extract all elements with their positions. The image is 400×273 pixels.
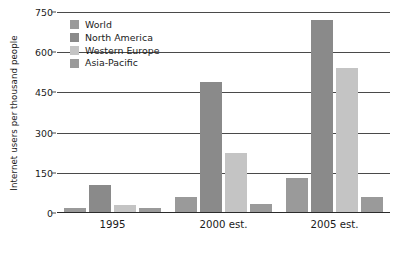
y-axis-tick-label: 0: [13, 208, 53, 219]
y-axis-tick-label: 450: [13, 87, 53, 98]
y-axis-tick-mark: [51, 172, 56, 173]
legend-item: Western Europe: [70, 46, 159, 55]
legend-swatch-icon: [70, 59, 79, 68]
bar-chart: Internet users per thousand people 01503…: [0, 0, 400, 273]
bar: [286, 178, 308, 213]
bar: [200, 82, 222, 213]
legend-label: Asia-Pacific: [85, 58, 138, 67]
y-axis-tick-mark: [51, 12, 56, 13]
y-axis-tick-label: 750: [13, 7, 53, 18]
bar: [89, 185, 111, 213]
y-axis-title: Internet users per thousand people: [9, 13, 19, 213]
y-axis-tick-label: 300: [13, 127, 53, 138]
chart-legend: WorldNorth AmericaWestern EuropeAsia-Pac…: [70, 20, 159, 68]
x-axis-line: [57, 212, 390, 213]
legend-label: Western Europe: [85, 46, 159, 55]
bar-group: [168, 12, 279, 213]
y-axis-tick-mark: [51, 92, 56, 93]
y-axis-tick-mark: [51, 52, 56, 53]
bar: [175, 197, 197, 213]
legend-label: North America: [85, 33, 153, 42]
x-axis-tick-label: 2000 est.: [200, 219, 248, 230]
bar: [361, 197, 383, 213]
legend-swatch-icon: [70, 33, 79, 42]
y-axis-tick-mark: [51, 132, 56, 133]
bar: [311, 20, 333, 213]
legend-item: North America: [70, 33, 159, 42]
y-axis-tick-mark: [51, 213, 56, 214]
legend-swatch-icon: [70, 20, 79, 29]
bar-group: [279, 12, 390, 213]
bar: [225, 153, 247, 213]
legend-swatch-icon: [70, 46, 79, 55]
legend-item: Asia-Pacific: [70, 58, 159, 67]
x-axis-tick-label: 2005 est.: [311, 219, 359, 230]
bar: [336, 68, 358, 213]
y-axis-tick-label: 150: [13, 167, 53, 178]
legend-item: World: [70, 20, 159, 29]
y-axis-tick-label: 600: [13, 47, 53, 58]
legend-label: World: [85, 20, 112, 29]
x-axis-tick-label: 1995: [100, 219, 126, 230]
